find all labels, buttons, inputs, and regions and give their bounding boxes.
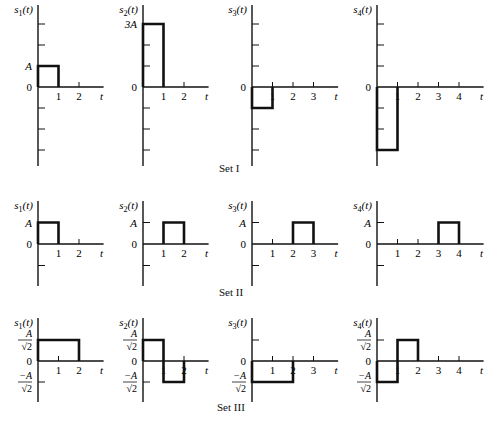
set2-plot4-y-label: A xyxy=(363,217,371,229)
set2-plot1-x-tick-label: 1 xyxy=(56,247,62,259)
set3-plot2-y-label-denominator: √2 xyxy=(127,383,138,394)
set3-plot1-x-tick-label: 1 xyxy=(56,364,62,376)
set1-plot2-title: s2(t) xyxy=(119,3,138,18)
set1-plot1-title: s1(t) xyxy=(14,3,33,18)
set2-plot4-y-label: 0 xyxy=(366,238,372,250)
set2-plot2-x-label: t xyxy=(205,247,209,259)
set2-plot2-title: s2(t) xyxy=(119,199,138,214)
set3-plot4-y-label: 0 xyxy=(366,355,372,367)
set2-plot2-x-tick-label: 1 xyxy=(161,247,167,259)
set3-plot4-y-label-numerator: A xyxy=(364,328,372,339)
set1-plot2-x-tick-label: 2 xyxy=(181,90,187,102)
set1-plot3-y-label: 0 xyxy=(241,81,247,93)
set2-plot4-x-tick-label: 2 xyxy=(415,247,421,259)
set3-plot4-x-tick-label: 4 xyxy=(456,364,462,376)
set1-plot4-x-tick-label: 4 xyxy=(456,90,462,102)
set1-plot4-y-label: 0 xyxy=(366,81,372,93)
set2-plot4-x-tick-label: 4 xyxy=(456,247,462,259)
set3-plot1-y-label-denominator: √2 xyxy=(22,383,33,394)
set3-plot1-y-label-denominator: √2 xyxy=(22,341,33,352)
set2-plot2-signal xyxy=(164,223,185,245)
set2-plot3-y-label: A xyxy=(238,217,246,229)
set2-plot3-x-tick-label: 2 xyxy=(290,247,296,259)
set2-plot2-y-label: A xyxy=(129,217,137,229)
signal-sets-figure: 12tA0s1(t)12t3A0s2(t)123t0s3(t)1234t0s4(… xyxy=(0,0,488,431)
set2-plot4-signal xyxy=(439,223,460,245)
set-3-label: Set III xyxy=(217,401,245,413)
set2-plot4-x-label: t xyxy=(480,247,484,259)
set1-plot4-x-tick-label: 2 xyxy=(415,90,421,102)
set3-plot3-y-label-numerator: −A xyxy=(233,370,247,381)
set3-plot2-x-label: t xyxy=(205,364,209,376)
set3-plot4-y-label-denominator: √2 xyxy=(361,383,372,394)
set3-plot1-y-label: 0 xyxy=(27,355,33,367)
set3-plot3-x-tick-label: 3 xyxy=(311,364,317,376)
set1-plot1-x-tick-label: 1 xyxy=(56,90,62,102)
set1-plot3-x-tick-label: 2 xyxy=(290,90,296,102)
set3-plot2-y-label: 0 xyxy=(132,355,138,367)
set1-plot3-x-label: t xyxy=(335,90,339,102)
set1-plot4-title: s4(t) xyxy=(353,3,372,18)
set1-plot2-x-label: t xyxy=(205,90,209,102)
set2-plot3-y-label: 0 xyxy=(241,238,247,250)
set2-plot2-y-label: 0 xyxy=(132,238,138,250)
set2-plot1-y-label: A xyxy=(24,217,32,229)
set2-plot1-x-label: t xyxy=(100,247,104,259)
set2-plot3-signal xyxy=(293,223,314,245)
set1-plot1-y-label: A xyxy=(24,60,32,72)
set3-plot3-x-tick-label: 1 xyxy=(270,364,276,376)
set3-plot4-y-label-denominator: √2 xyxy=(361,341,372,352)
set1-plot1-x-tick-label: 2 xyxy=(76,90,82,102)
set3-plot1-x-tick-label: 2 xyxy=(76,364,82,376)
set2-plot3-x-label: t xyxy=(335,247,339,259)
set3-plot1-y-label-numerator: −A xyxy=(19,370,33,381)
set3-plot3-x-label: t xyxy=(335,364,339,376)
set3-plot4-x-tick-label: 2 xyxy=(415,364,421,376)
set3-plot4-y-label-numerator: −A xyxy=(358,370,372,381)
set-1-label: Set I xyxy=(219,162,239,174)
set1-plot1-y-label: 0 xyxy=(27,81,33,93)
set1-plot2-signal xyxy=(143,24,164,87)
set1-plot1-signal xyxy=(38,66,59,87)
set3-plot1-y-label-numerator: A xyxy=(25,328,33,339)
set3-plot4-x-tick-label: 3 xyxy=(436,364,442,376)
set1-plot2-x-tick-label: 1 xyxy=(161,90,167,102)
set1-plot1-x-label: t xyxy=(100,90,104,102)
set2-plot1-signal xyxy=(38,223,59,245)
set1-plot2-y-label: 3A xyxy=(124,18,138,30)
set3-plot3-y-label: 0 xyxy=(241,355,247,367)
set2-plot2-x-tick-label: 2 xyxy=(181,247,187,259)
set2-plot3-x-tick-label: 3 xyxy=(311,247,317,259)
set1-plot2-y-label: 0 xyxy=(132,81,138,93)
set2-plot1-y-label: 0 xyxy=(27,238,33,250)
set-2-label: Set II xyxy=(219,286,243,298)
set1-plot3-x-tick-label: 3 xyxy=(311,90,317,102)
set2-plot3-x-tick-label: 1 xyxy=(270,247,276,259)
set1-plot4-x-label: t xyxy=(480,90,484,102)
set2-plot1-x-tick-label: 2 xyxy=(76,247,82,259)
set3-plot2-y-label-numerator: A xyxy=(130,328,138,339)
set1-plot4-x-tick-label: 3 xyxy=(436,90,442,102)
set3-plot2-y-label-numerator: −A xyxy=(124,370,138,381)
set2-plot3-title: s3(t) xyxy=(228,199,247,214)
set3-plot1-x-label: t xyxy=(100,364,104,376)
set3-plot4-x-label: t xyxy=(480,364,484,376)
set2-plot4-x-tick-label: 3 xyxy=(436,247,442,259)
set3-plot3-title: s3(t) xyxy=(228,316,247,331)
set2-plot4-x-tick-label: 1 xyxy=(395,247,401,259)
set1-plot3-title: s3(t) xyxy=(228,3,247,18)
set3-plot3-y-label-denominator: √2 xyxy=(236,383,247,394)
set2-plot1-title: s1(t) xyxy=(14,199,33,214)
set3-plot2-y-label-denominator: √2 xyxy=(127,341,138,352)
set2-plot4-title: s4(t) xyxy=(353,199,372,214)
